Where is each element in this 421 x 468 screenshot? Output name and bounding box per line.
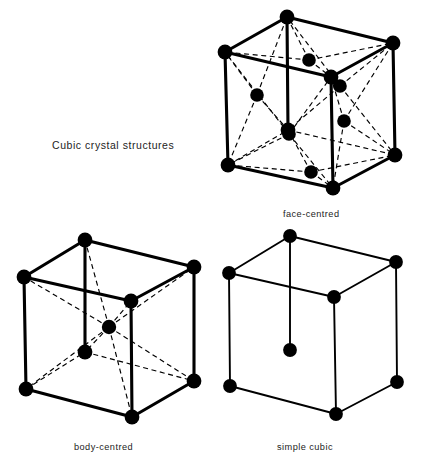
atom-corner bbox=[78, 233, 93, 248]
atom-corner bbox=[78, 345, 93, 360]
atom-corner bbox=[187, 374, 202, 389]
cubic-crystal-structures-figure: Cubic crystal structures face-centred bo… bbox=[0, 0, 421, 468]
atom-corner bbox=[280, 10, 295, 25]
fcc-cube-edges bbox=[225, 17, 395, 188]
atom-corner bbox=[327, 290, 341, 304]
atom-corner bbox=[222, 266, 236, 280]
atom-body-centre bbox=[102, 320, 116, 334]
atom-corner bbox=[124, 294, 139, 309]
atom-corner bbox=[125, 410, 140, 425]
label-face-centred: face-centred bbox=[283, 209, 339, 219]
atom-face-centre bbox=[282, 127, 296, 141]
atom-face-centre bbox=[302, 53, 316, 67]
crystal-lattice-drawing bbox=[0, 0, 421, 468]
atom-corner bbox=[223, 379, 237, 393]
figure-title: Cubic crystal structures bbox=[52, 139, 174, 151]
face-centred-cubic-cell bbox=[218, 10, 403, 196]
atom-corner bbox=[388, 148, 403, 163]
atom-corner bbox=[386, 36, 401, 51]
atom-corner bbox=[187, 260, 202, 275]
fcc-dashed-lines bbox=[225, 17, 395, 188]
atom-corner bbox=[326, 181, 341, 196]
atom-corner bbox=[283, 229, 297, 243]
atom-corner bbox=[329, 407, 343, 421]
atom-face-centre bbox=[250, 88, 264, 102]
atom-corner bbox=[218, 45, 233, 60]
atom-corner bbox=[389, 255, 403, 269]
atom-corner bbox=[17, 270, 32, 285]
simple-cubic-cell bbox=[222, 229, 404, 421]
label-body-centred: body-centred bbox=[74, 442, 133, 452]
atom-corner bbox=[390, 375, 404, 389]
atom-corner bbox=[221, 158, 236, 173]
label-simple-cubic: simple cubic bbox=[277, 442, 333, 452]
atom-face-centre bbox=[337, 114, 351, 128]
atom-corner bbox=[283, 343, 297, 357]
atom-face-centre bbox=[304, 165, 318, 179]
atom-face-centre bbox=[333, 79, 347, 93]
atom-corner bbox=[19, 382, 34, 397]
sc-cube-edges bbox=[229, 236, 397, 414]
body-centred-cubic-cell bbox=[17, 233, 202, 425]
